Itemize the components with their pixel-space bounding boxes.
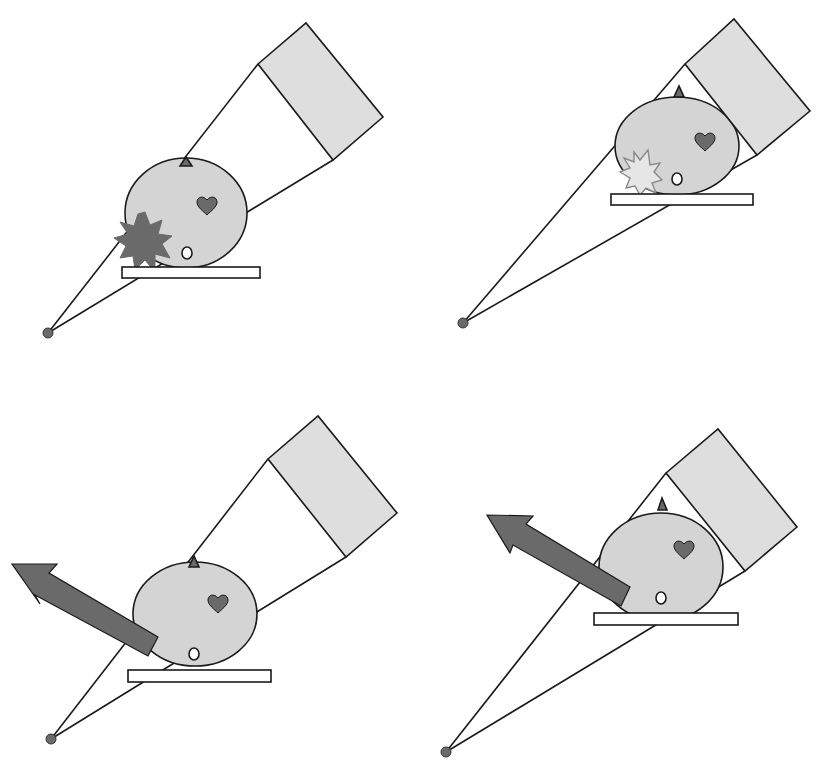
panel-top-right — [458, 19, 810, 328]
spine-marker — [189, 648, 199, 660]
spine-marker — [656, 592, 666, 604]
point-source-icon — [46, 734, 56, 744]
detector-panel — [268, 416, 397, 557]
nose-marker — [658, 498, 667, 510]
patient-table — [128, 670, 271, 682]
patient-table — [611, 194, 753, 205]
nose-marker — [674, 86, 684, 97]
spine-marker — [672, 173, 682, 185]
point-source-icon — [441, 747, 451, 757]
point-source-icon — [458, 318, 468, 328]
diagram-canvas — [0, 0, 828, 773]
panel-top-left — [43, 23, 383, 338]
spine-marker — [182, 247, 192, 259]
point-source-icon — [43, 328, 53, 338]
panel-bottom-right — [441, 429, 797, 757]
panel-bottom-left — [12, 416, 397, 744]
patient-table — [122, 267, 260, 278]
patient-table — [594, 613, 738, 625]
detector-panel — [258, 23, 383, 160]
